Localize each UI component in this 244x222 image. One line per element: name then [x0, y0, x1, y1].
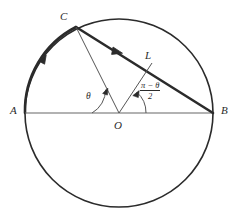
angle-label-theta: θ — [86, 92, 91, 102]
point-label-b: B — [221, 105, 228, 116]
point-label-c: C — [60, 11, 67, 22]
point-label-a: A — [10, 105, 17, 116]
fraction-numerator: π − θ — [140, 81, 160, 90]
arc-AC — [25, 27, 76, 113]
angle-arc-half-pi-minus-theta-arrow-icon — [133, 91, 139, 98]
chord-CB-direction-arrow-icon — [112, 47, 123, 54]
angle-arc-theta-arrow-icon — [103, 88, 108, 95]
diagram-canvas — [0, 0, 244, 222]
point-label-o: O — [114, 120, 122, 131]
angle-label-half-pi-minus-theta: π − θ 2 — [140, 81, 160, 101]
point-label-l: L — [145, 50, 151, 61]
geometry-figure: A B C O L θ π − θ 2 — [0, 0, 244, 222]
fraction-denominator: 2 — [140, 92, 160, 101]
